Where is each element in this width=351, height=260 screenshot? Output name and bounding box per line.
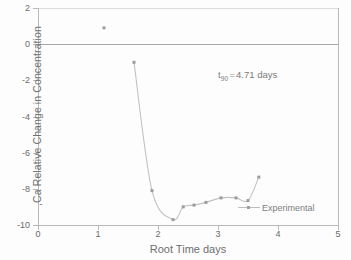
data-point — [151, 189, 154, 192]
t90-annotation: t90=4.71 days — [218, 69, 277, 82]
data-point — [235, 196, 238, 199]
data-point — [220, 196, 223, 199]
data-point — [247, 199, 250, 202]
data-point — [103, 26, 106, 29]
chart-container: 20-2-4-6-8-10 012345 ,Ca Relative Change… — [0, 0, 351, 260]
data-point — [205, 201, 208, 204]
data-point — [257, 176, 260, 179]
data-point — [182, 205, 185, 208]
annotation-value: 4.71 days — [236, 69, 277, 80]
x-axis-title: Root Time days — [38, 243, 338, 255]
plot-area — [0, 0, 351, 260]
legend-label: Experimental — [262, 203, 315, 213]
data-point — [193, 204, 196, 207]
experimental-curve — [134, 62, 259, 220]
data-point — [172, 218, 175, 221]
legend-marker-icon — [238, 207, 260, 208]
experimental-points — [103, 26, 261, 221]
data-point — [133, 61, 136, 64]
annotation-equals: = — [228, 69, 236, 80]
y-axis-title: ,Ca Relative Change in Concentration — [31, 11, 43, 221]
